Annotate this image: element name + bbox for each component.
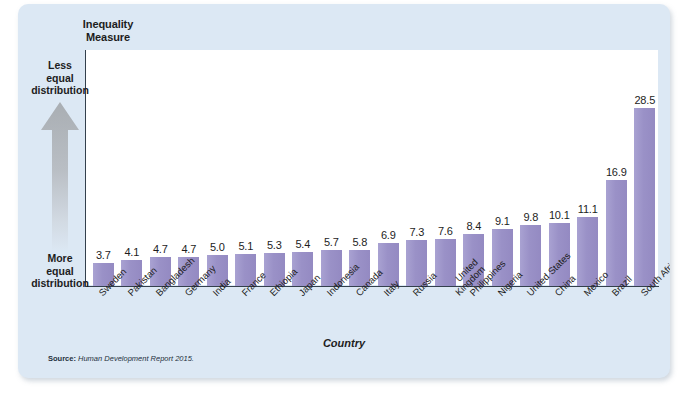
bars-container: 3.74.14.74.75.05.15.35.45.75.86.97.37.68… — [85, 50, 659, 286]
bar-slot: 16.9 — [602, 50, 631, 286]
bar[interactable] — [634, 108, 655, 286]
source-label: Source: — [48, 354, 76, 363]
y-axis-title: Inequality Measure — [58, 18, 158, 44]
bar-value-label: 4.1 — [124, 246, 139, 258]
bar-slot: 3.7 — [89, 50, 118, 286]
bar-value-label: 28.5 — [634, 94, 655, 106]
bar-slot: 10.1 — [545, 50, 574, 286]
bar-value-label: 3.7 — [96, 249, 111, 261]
bar-slot: 5.3 — [260, 50, 289, 286]
up-arrow-icon — [39, 100, 81, 252]
bar-slot: 5.7 — [317, 50, 346, 286]
bar-slot: 9.1 — [488, 50, 517, 286]
bar-value-label: 5.3 — [267, 239, 282, 251]
y-axis-title-line-1: Inequality — [58, 18, 158, 31]
y-axis-title-line-2: Measure — [58, 31, 158, 44]
bar-slot: 6.9 — [374, 50, 403, 286]
source-note: Source: Human Development Report 2015. — [48, 354, 194, 363]
bar-value-label: 5.4 — [295, 238, 310, 250]
bar-value-label: 5.0 — [210, 241, 225, 253]
bar-value-label: 9.8 — [523, 211, 538, 223]
bar-slot: 4.7 — [175, 50, 204, 286]
bar-value-label: 5.8 — [352, 236, 367, 248]
bar-value-label: 10.1 — [549, 209, 570, 221]
bar-slot: 5.1 — [232, 50, 261, 286]
bar-value-label: 9.1 — [495, 215, 510, 227]
bar-value-label: 7.6 — [438, 225, 453, 237]
source-text: Human Development Report 2015. — [78, 354, 194, 363]
bar-value-label: 8.4 — [466, 220, 481, 232]
bar-value-label: 16.9 — [606, 166, 627, 178]
bar-slot: 4.1 — [118, 50, 147, 286]
bar-value-label: 5.1 — [238, 240, 253, 252]
bar-slot: 5.0 — [203, 50, 232, 286]
bar-value-label: 7.3 — [409, 226, 424, 238]
bar-slot: 7.3 — [403, 50, 432, 286]
x-axis-title: Country — [18, 337, 670, 349]
bar-slot: 8.4 — [460, 50, 489, 286]
bar-value-label: 4.7 — [153, 243, 168, 255]
bar-value-label: 5.7 — [324, 236, 339, 248]
figure-panel: Inequality Measure Less equal distributi… — [18, 4, 670, 378]
bar-slot: 7.6 — [431, 50, 460, 286]
bar[interactable] — [606, 180, 627, 286]
bar-slot: 4.7 — [146, 50, 175, 286]
bar-slot: 5.8 — [346, 50, 375, 286]
bar-slot: 5.4 — [289, 50, 318, 286]
bar-value-label: 6.9 — [381, 229, 396, 241]
bar-slot: 11.1 — [574, 50, 603, 286]
bar-slot: 28.5 — [631, 50, 660, 286]
bar-value-label: 11.1 — [578, 203, 598, 215]
bar-value-label: 4.7 — [181, 243, 196, 255]
bar-slot: 9.8 — [517, 50, 546, 286]
